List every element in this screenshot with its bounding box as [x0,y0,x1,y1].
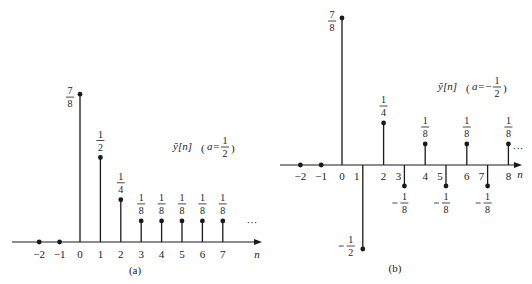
svg-text:1: 1 [159,192,164,203]
value-label: 18 [476,191,492,215]
stem-dot [57,240,62,245]
stem-dot [98,155,103,160]
x-tick-label: −2 [33,248,45,260]
stem-dot [37,240,42,245]
x-tick-label: 6 [464,170,470,182]
value-label: 18 [219,192,227,216]
svg-text:1: 1 [348,234,353,245]
stem-dot [360,247,365,252]
svg-text:1: 1 [98,129,103,140]
x-tick-label: 3 [396,170,402,182]
series-label: ỹ[n](a=−12) [437,75,507,99]
stem-dot [464,142,469,147]
value-label: 18 [504,115,512,139]
subfigure-caption: (a) [129,264,142,277]
x-tick-label: −1 [54,248,66,260]
svg-text:1: 1 [464,115,469,126]
svg-text:(: ( [201,142,205,155]
x-tick-label: 5 [437,170,443,182]
x-tick-label: 0 [339,170,345,182]
svg-text:(: ( [466,82,470,95]
stem-dot [298,163,303,168]
svg-text:1: 1 [506,115,511,126]
value-label: 12 [339,234,355,258]
svg-text:8: 8 [485,204,490,215]
stem-dot [159,218,164,223]
series-label: ỹ[n](a=12) [172,135,235,159]
stem-dot [506,142,511,147]
x-tick-label: 1 [98,248,104,260]
svg-text:2: 2 [495,88,500,99]
svg-text:1: 1 [220,192,225,203]
svg-text:): ) [503,82,507,95]
svg-text:a=: a= [207,140,220,152]
svg-text:8: 8 [464,128,469,139]
x-tick-label: 7 [479,170,485,182]
x-tick-label: 2 [381,170,387,182]
value-label: 18 [392,191,408,215]
svg-text:1: 1 [200,192,205,203]
stem-dot [402,184,407,189]
value-label: 14 [380,94,388,118]
stem-dot [78,92,83,97]
svg-text:1: 1 [381,94,386,105]
value-label: 12 [96,129,104,153]
svg-text:ỹ[n]: ỹ[n] [437,80,457,92]
svg-text:4: 4 [381,107,386,118]
x-tick-label: 4 [159,248,165,260]
stem-dot [220,218,225,223]
x-tick-label: 2 [118,248,124,260]
x-tick-label: 6 [200,248,206,260]
value-label: 78 [66,85,74,109]
svg-text:1: 1 [180,192,185,203]
value-label: 18 [463,115,471,139]
stem-dot [381,121,386,126]
svg-text:8: 8 [330,22,335,33]
continuation-ellipsis: ··· [247,216,258,228]
svg-text:1: 1 [495,75,500,86]
stem-plot-a: n−2−1078112214318418518618718ỹ[n](a=12)·… [12,85,262,277]
x-axis-label: n [254,248,260,260]
x-tick-label: 5 [179,248,185,260]
svg-text:8: 8 [423,128,428,139]
svg-text:ỹ[n]: ỹ[n] [172,140,192,152]
x-tick-label: −2 [295,170,307,182]
stem-dot [118,197,123,202]
svg-text:8: 8 [402,204,407,215]
svg-text:2: 2 [223,148,228,159]
value-label: 18 [434,191,450,215]
x-tick-label: 4 [422,170,428,182]
stem-dot [340,16,345,21]
value-label: 18 [158,192,166,216]
x-tick-label: 7 [220,248,226,260]
svg-text:1: 1 [423,115,428,126]
stem-dot [180,218,185,223]
value-label: 18 [198,192,206,216]
svg-text:8: 8 [220,205,225,216]
value-label: 78 [328,9,336,33]
svg-text:1: 1 [485,191,490,202]
stem-dot [319,163,324,168]
x-tick-label: −1 [315,170,327,182]
stem-plots: n−2−1078112214318418518618718ỹ[n](a=12)·… [0,0,532,284]
stem-dot [423,142,428,147]
value-label: 18 [421,115,429,139]
stem-dot [485,184,490,189]
stem-dot [139,218,144,223]
svg-text:1: 1 [223,135,228,146]
svg-text:1: 1 [139,192,144,203]
x-axis-label: n [517,168,523,180]
svg-text:8: 8 [444,204,449,215]
svg-text:2: 2 [98,142,103,153]
svg-text:1: 1 [402,191,407,202]
x-tick-label: 8 [506,170,512,182]
svg-text:8: 8 [159,205,164,216]
svg-text:1: 1 [118,171,123,182]
value-label: 18 [178,192,186,216]
svg-text:7: 7 [330,9,335,20]
axis-arrow-icon [254,239,262,245]
svg-text:8: 8 [506,128,511,139]
svg-text:4: 4 [118,184,123,195]
svg-text:a=−: a=− [472,80,492,92]
stem-dot [444,184,449,189]
